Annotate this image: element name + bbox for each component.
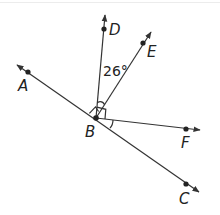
arc-fbc [110, 120, 113, 128]
point-c [183, 181, 188, 186]
label-f: F [181, 136, 190, 151]
point-e [140, 40, 145, 45]
label-d: D [109, 23, 121, 38]
label-b: B [85, 125, 95, 140]
point-d [101, 26, 106, 31]
label-a: A [18, 79, 28, 94]
angle-dbe-label: 26° [103, 64, 128, 78]
point-b [93, 115, 99, 121]
point-f [183, 126, 188, 131]
label-e: E [147, 45, 156, 60]
line-ac [17, 65, 199, 192]
point-a [25, 69, 30, 74]
label-c: C [179, 192, 189, 207]
arc-dbe [97, 102, 104, 105]
geometry-diagram: A B C D E F 26° [0, 0, 220, 215]
